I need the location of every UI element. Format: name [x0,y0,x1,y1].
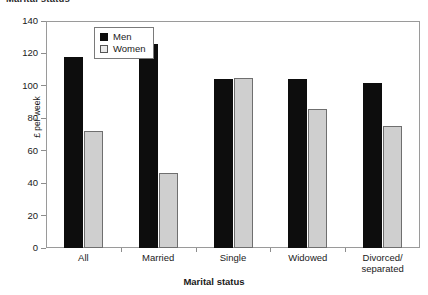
bar-women[interactable] [308,109,327,248]
y-tick-label: 40 [27,177,38,189]
bar-men[interactable] [64,57,83,248]
y-tick-label: 120 [22,47,38,59]
x-category-label-line: Married [115,252,201,263]
x-category-label-line: Single [190,252,276,263]
y-tick-label: 20 [27,210,38,222]
x-category-label: Widowed [265,252,351,263]
bar-men[interactable] [139,44,158,248]
y-tick: 0 [0,242,46,254]
x-category-label-line: Divorced/ [340,252,426,263]
y-tick: 60 [0,145,46,157]
x-category-label: Married [115,252,201,263]
y-tick: 100 [0,80,46,92]
bar-group [288,21,327,248]
legend-swatch-women-icon [100,45,108,53]
bar-women[interactable] [234,78,253,248]
legend-item-men: Men [100,31,146,43]
y-tick: 140 [0,15,46,27]
chart-legend: Men Women [94,27,154,59]
legend-swatch-men-icon [100,33,108,41]
x-axis-title: Marital status [0,276,428,287]
bar-women[interactable] [84,131,103,248]
y-tick-label: 0 [33,242,38,254]
bar-chart-figure: Marital status £ per week 14012010080604… [0,0,428,295]
x-category-label: Divorced/separated [340,252,426,274]
x-category-label-line: separated [340,263,426,274]
y-tick: 80 [0,112,46,124]
bar-women[interactable] [383,126,402,248]
y-tick: 120 [0,47,46,59]
chart-title: Marital status [6,0,70,2]
x-category-label: All [40,252,126,263]
y-tick-label: 60 [27,145,38,157]
bar-men[interactable] [288,79,307,248]
bar-group [214,21,253,248]
y-tick: 20 [0,210,46,222]
y-tick-label: 80 [27,112,38,124]
x-category-label: Single [190,252,276,263]
x-category-label-line: Widowed [265,252,351,263]
y-tick-label: 140 [22,15,38,27]
bar-men[interactable] [214,79,233,248]
y-tick: 40 [0,177,46,189]
bar-group [363,21,402,248]
bar-women[interactable] [159,173,178,248]
legend-label-men: Men [113,31,131,43]
y-tick-label: 100 [22,80,38,92]
bar-men[interactable] [363,83,382,248]
x-category-label-line: All [40,252,126,263]
legend-label-women: Women [113,43,146,55]
legend-item-women: Women [100,43,146,55]
